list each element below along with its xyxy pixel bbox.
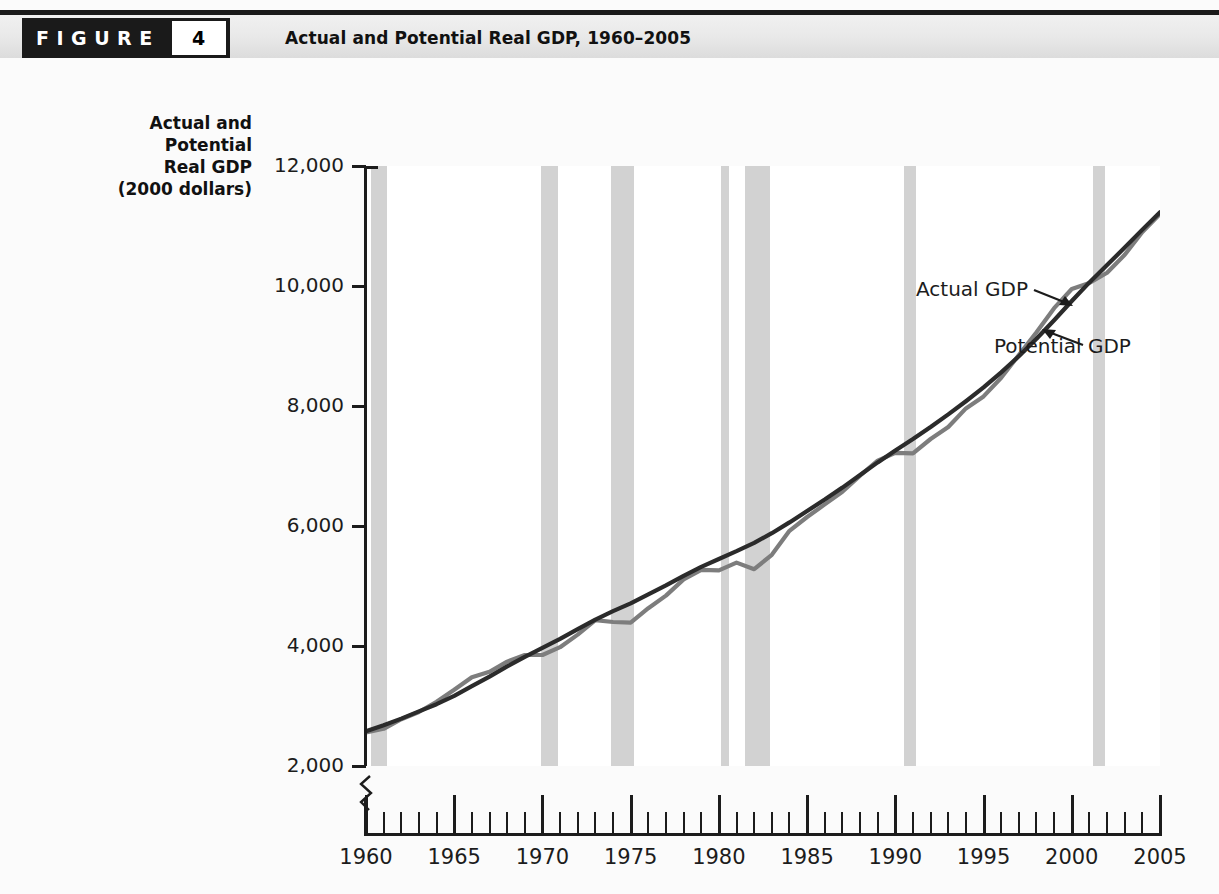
x-axis-tick-minor [841,812,843,834]
x-axis-tick-minor [506,812,508,834]
x-axis-tick-minor [400,812,402,834]
annotation-arrows [0,0,1219,894]
y-axis-tick [352,645,366,648]
y-axis-tick-label: 12,000 [234,153,344,177]
y-axis-tick-label: 10,000 [234,273,344,297]
x-axis-tick-label: 1975 [586,845,676,869]
x-axis-tick-minor [947,812,949,834]
x-axis-tick-label: 1960 [321,845,411,869]
x-axis-tick-label: 1990 [850,845,940,869]
x-axis-tick-label: 1985 [762,845,852,869]
y-axis-tick [352,285,366,288]
x-axis-tick-major [365,795,368,834]
y-axis-tick-label: 6,000 [234,513,344,537]
x-axis-tick-minor [559,812,561,834]
x-axis-tick-minor [489,812,491,834]
x-axis-tick-minor [1141,812,1143,834]
x-axis-tick-minor [788,812,790,834]
x-axis-tick-major [453,795,456,834]
figure-page: FIGURE 4 Actual and Potential Real GDP, … [0,0,1219,894]
x-axis-tick-minor [824,812,826,834]
x-axis-tick-minor [859,812,861,834]
y-axis-tick-label: 2,000 [234,753,344,777]
x-axis-tick-minor [418,812,420,834]
x-axis-tick-major [983,795,986,834]
x-axis-tick-minor [665,812,667,834]
x-axis-tick-minor [383,812,385,834]
x-axis-tick-minor [436,812,438,834]
x-axis-tick-minor [912,812,914,834]
x-axis-tick-major [630,795,633,834]
x-axis-tick-minor [471,812,473,834]
x-axis-tick-major [1071,795,1074,834]
x-axis-tick-label: 1980 [674,845,764,869]
y-axis-tick [352,765,366,768]
x-axis-tick-major [894,795,897,834]
x-axis-tick-label: 2005 [1115,845,1205,869]
x-axis-tick-major [718,795,721,834]
x-axis-tick-minor [612,812,614,834]
y-axis-tick-label: 4,000 [234,633,344,657]
x-axis-tick-minor [1018,812,1020,834]
y-axis-tick [352,405,366,408]
x-axis-tick-label: 1970 [497,845,587,869]
x-axis-tick-minor [1035,812,1037,834]
x-axis-tick-minor [577,812,579,834]
x-axis-tick-label: 2000 [1027,845,1117,869]
y-axis-tick-label: 8,000 [234,393,344,417]
x-axis-tick-minor [1053,812,1055,834]
x-axis-tick-minor [930,812,932,834]
x-axis-tick-minor [647,812,649,834]
y-axis-tick [352,525,366,528]
gdp-line-chart: Actual and Potential Real GDP (2000 doll… [0,0,1219,894]
x-axis-tick-minor [1088,812,1090,834]
x-axis-tick-minor [524,812,526,834]
x-axis-tick-minor [753,812,755,834]
x-axis-tick-minor [700,812,702,834]
x-axis-tick-major [806,795,809,834]
x-axis-tick-label: 1965 [409,845,499,869]
x-axis-tick-minor [594,812,596,834]
x-axis-tick-minor [965,812,967,834]
x-axis-tick-major [541,795,544,834]
x-axis-tick-minor [1106,812,1108,834]
x-axis-tick-minor [736,812,738,834]
x-axis-tick-minor [683,812,685,834]
x-axis-tick-minor [1124,812,1126,834]
x-axis-tick-minor [877,812,879,834]
y-axis-tick [352,165,366,168]
x-axis-tick-label: 1995 [939,845,1029,869]
x-axis-tick-minor [771,812,773,834]
x-axis-tick-minor [1000,812,1002,834]
